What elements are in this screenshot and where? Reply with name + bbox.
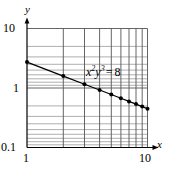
y-axis-label: y — [25, 4, 30, 15]
y-tick-label-10: 10 — [3, 22, 15, 34]
equation-annotation: x2y3=8 — [86, 66, 121, 78]
data-point — [109, 93, 113, 97]
plot-canvas — [0, 0, 169, 174]
data-point — [98, 88, 102, 92]
data-point — [119, 96, 123, 100]
data-point — [83, 82, 87, 86]
y-tick-label-0-1: 0.1 — [1, 141, 16, 153]
data-point — [127, 99, 131, 103]
data-point — [61, 74, 65, 78]
log-log-plot-figure: 10 1 0.1 1 10 y x x2y3=8 — [0, 0, 169, 174]
data-point — [25, 60, 29, 64]
data-point — [134, 102, 138, 106]
data-point — [140, 105, 144, 109]
x-axis-label: x — [157, 139, 162, 150]
y-axis-arrow — [25, 18, 30, 24]
x-tick-label-10: 10 — [139, 152, 151, 164]
equation-rhs: 8 — [113, 65, 121, 79]
y-tick-label-1: 1 — [13, 82, 19, 94]
x-tick-label-1: 1 — [23, 152, 29, 164]
data-point — [146, 107, 150, 111]
